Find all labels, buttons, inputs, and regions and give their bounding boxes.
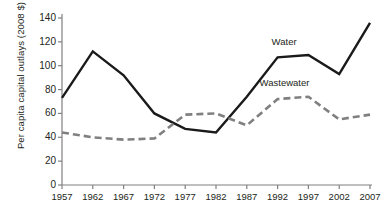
series-label-wastewater: Wastewater [260,78,310,88]
chart-container: Per capita capital outlays (2008 $) 0204… [0,0,390,214]
x-axis-tick-label: 2002 [329,192,350,202]
x-axis-tick-label: 1972 [144,192,165,202]
series-label-water: Water [272,37,297,47]
x-axis-tick-label: 1982 [205,192,226,202]
x-axis-tick-label: 1962 [82,192,103,202]
x-axis-tick-label: 1992 [267,192,288,202]
x-axis-tick-label: 1967 [113,192,134,202]
x-axis-tick-label: 1977 [175,192,196,202]
x-axis-tick-label: 1997 [298,192,319,202]
x-axis-tick-label: 2007 [359,192,380,202]
x-axis-tick-labels: 1957196219671972197719821987199219972002… [0,0,390,214]
x-axis-tick-label: 1987 [236,192,257,202]
x-axis-tick-label: 1957 [51,192,72,202]
